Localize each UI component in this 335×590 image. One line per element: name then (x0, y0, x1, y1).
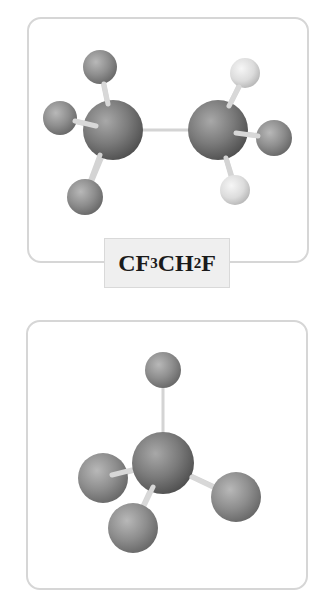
formula-part: CF (118, 250, 150, 277)
hydrogen-atom (220, 175, 250, 205)
fluorine-atom (108, 503, 158, 553)
formula-part: F (201, 250, 216, 277)
carbon-atom (188, 100, 248, 160)
carbon-atom (83, 100, 143, 160)
formula-label: CF3CH2F (104, 238, 230, 288)
fluorine-atom (256, 120, 292, 156)
formula-part: CH (158, 250, 194, 277)
fluorine-atom (43, 101, 77, 135)
fluorine-atom (145, 352, 181, 388)
atoms-cf3ch2f (43, 50, 292, 215)
fluorine-atom (211, 472, 261, 522)
atoms-cf4 (78, 352, 261, 553)
fluorine-atom (78, 453, 128, 503)
fluorine-atom (67, 179, 103, 215)
hydrogen-atom (230, 58, 260, 88)
fluorine-atom (83, 50, 117, 84)
carbon-atom (132, 432, 194, 494)
